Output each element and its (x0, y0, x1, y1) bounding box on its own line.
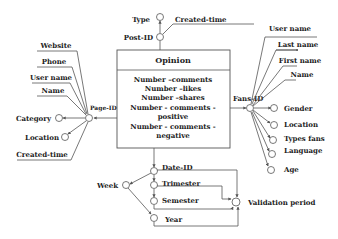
fans-location-label: Location (284, 120, 318, 129)
week-label: Week (96, 181, 118, 190)
semester-label: Semester (162, 196, 199, 205)
measure: Number –comments (134, 75, 212, 84)
dimension-date: Date-ID Trimester Semester Year Week Val… (96, 148, 316, 226)
location-label: Location (25, 133, 59, 142)
language-label: Language (284, 146, 323, 155)
fans-name-label: Name (291, 70, 314, 79)
date-id-label: Date-ID (162, 163, 193, 172)
type-node (157, 14, 164, 21)
trimester-node (151, 182, 158, 189)
measure: Number –likes (145, 84, 201, 93)
measure: Number - comments - (130, 103, 216, 112)
dimension-fans: Fans-ID User name Last name First name N… (230, 24, 325, 174)
fact-title: Opinion (155, 55, 191, 65)
username-label: User name (30, 73, 73, 82)
trimester-label: Trimester (162, 179, 201, 188)
year-node (151, 215, 158, 222)
fans-location-node (271, 122, 278, 129)
phone-label: Phone (42, 57, 67, 66)
age-node (268, 167, 275, 174)
fans-id-node (247, 105, 254, 112)
fans-username-label: User name (269, 24, 312, 33)
dimension-post: Post-ID Type Created-time (124, 14, 254, 51)
dimension-page: Page-ID Website Phone User name Name Cat… (16, 41, 117, 160)
week-node (123, 182, 130, 189)
fact-opinion: Opinion Number –comments Number –likes N… (117, 50, 230, 148)
types-fans-node (270, 137, 277, 144)
first-name-label: First name (279, 56, 322, 65)
measure: Number –shares (141, 93, 205, 102)
language-node (269, 151, 276, 158)
last-name-label: Last name (278, 40, 319, 49)
age-label: Age (283, 165, 299, 174)
name-label: Name (42, 86, 65, 95)
types-fans-label: Types fans (284, 134, 325, 143)
measure: negative (156, 131, 190, 140)
page-id-label: Page-ID (90, 104, 117, 112)
gender-label: Gender (284, 104, 313, 113)
fact-diagram: Opinion Number –comments Number –likes N… (0, 0, 338, 239)
validation-period-label: Validation period (247, 198, 316, 207)
page-id-node (86, 115, 93, 122)
website-label: Website (40, 41, 72, 50)
date-id-node (151, 168, 158, 175)
created-time-label: Created-time (175, 15, 227, 24)
post-id-label: Post-ID (124, 33, 153, 42)
measure: positive (158, 112, 189, 121)
year-label: Year (164, 215, 182, 224)
category-node (56, 115, 63, 122)
measure: Number - comments - (130, 122, 216, 131)
page-created-time-label: Created-time (16, 150, 68, 159)
location-node (62, 134, 69, 141)
semester-node (151, 198, 158, 205)
category-label: Category (16, 114, 52, 123)
validation-period-node (232, 198, 240, 206)
post-id-node (157, 34, 164, 41)
gender-node (271, 105, 278, 112)
type-label: Type (132, 15, 150, 24)
